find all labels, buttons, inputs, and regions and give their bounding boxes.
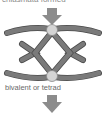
bivalent-label: bivalent or tetrad (5, 83, 61, 92)
top-arrow-icon (42, 8, 62, 25)
bivalent-diagram (0, 0, 105, 115)
lower-centromere (47, 71, 58, 82)
chiasma-arms (22, 32, 83, 74)
bottom-arrow-icon (42, 95, 62, 113)
upper-centromere (47, 25, 58, 36)
